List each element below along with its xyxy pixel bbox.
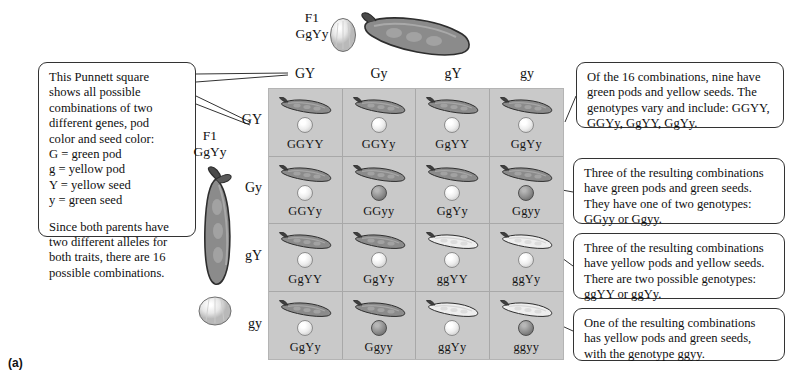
- figure-part-label: (a): [8, 356, 23, 370]
- callout-green-pod-green-seed: Three of the resulting combinations have…: [573, 158, 785, 224]
- seed-icon: [297, 320, 313, 336]
- callout-left-line-4: different genes, pod: [49, 116, 149, 130]
- cell-genotype-label: GGyy: [343, 204, 416, 219]
- pod-icon: [498, 232, 554, 249]
- punnett-cell[interactable]: GgYy: [343, 224, 417, 292]
- row-header-1: Gy: [228, 180, 262, 196]
- pod-icon: [277, 232, 333, 249]
- cell-genotype-label: Ggyy: [490, 204, 564, 219]
- pod-icon: [424, 165, 480, 182]
- seed-icon: [444, 252, 460, 268]
- callout-left-line-1: This Punnett square: [49, 70, 149, 84]
- row-header-0: GY: [228, 112, 262, 128]
- punnett-cell[interactable]: Ggyy: [490, 157, 564, 225]
- pod-icon: [277, 97, 333, 114]
- parent-pod-top-icon: [358, 12, 476, 60]
- row-header-2: gY: [228, 248, 262, 264]
- seed-icon: [371, 117, 387, 133]
- seed-icon: [371, 252, 387, 268]
- seed-icon: [518, 252, 534, 268]
- punnett-cell[interactable]: Ggyy: [343, 292, 417, 360]
- f1-left-generation: F1: [186, 128, 234, 144]
- callout-yellow-pod-green-seed: One of the resulting combinations has ye…: [573, 308, 785, 361]
- callout-left-paragraph-1: This Punnett square shows all possible c…: [49, 70, 186, 209]
- seed-icon: [371, 320, 387, 336]
- cell-genotype-label: GGYY: [269, 137, 342, 152]
- callout-left-line-5: color and seed color:: [49, 132, 154, 146]
- seed-icon: [297, 252, 313, 268]
- seed-icon: [518, 185, 534, 201]
- callout-left-line-2: shows all possible: [49, 85, 141, 99]
- cell-genotype-label: GGYy: [343, 137, 416, 152]
- cell-genotype-label: GgYY: [269, 272, 342, 287]
- pod-icon: [351, 232, 407, 249]
- seed-icon: [444, 185, 460, 201]
- seed-icon: [444, 117, 460, 133]
- seed-icon: [518, 117, 534, 133]
- punnett-cell[interactable]: GgYY: [416, 89, 490, 157]
- seed-icon: [371, 185, 387, 201]
- seed-icon: [444, 320, 460, 336]
- column-header-0: GY: [268, 66, 342, 82]
- pod-icon: [424, 97, 480, 114]
- cell-genotype-label: GgYy: [490, 137, 564, 152]
- punnett-cell[interactable]: GGYy: [269, 157, 343, 225]
- punnett-cell[interactable]: ggYy: [416, 292, 490, 360]
- figure-canvas: This Punnett square shows all possible c…: [0, 0, 795, 386]
- punnett-cell[interactable]: GgYy: [416, 157, 490, 225]
- pod-icon: [351, 300, 407, 317]
- punnett-cell[interactable]: ggyy: [490, 292, 564, 360]
- punnett-square-grid: GGYYGGYyGgYYGgYyGGYyGGyyGgYyGgyyGgYYGgYy…: [268, 88, 564, 360]
- cell-genotype-label: GgYy: [269, 340, 342, 355]
- pod-icon: [424, 232, 480, 249]
- pod-icon: [277, 165, 333, 182]
- punnett-cell[interactable]: GgYy: [490, 89, 564, 157]
- punnett-cell[interactable]: GgYY: [269, 224, 343, 292]
- callout-left-explanation: This Punnett square shows all possible c…: [38, 62, 196, 237]
- punnett-cell[interactable]: GGYY: [269, 89, 343, 157]
- pod-icon: [351, 97, 407, 114]
- cell-genotype-label: ggYy: [416, 340, 489, 355]
- cell-genotype-label: GgYy: [416, 204, 489, 219]
- callout-green-pod-yellow-seed: Of the 16 combinations, nine have green …: [576, 62, 784, 128]
- f1-parent-left-label: F1 GgYy: [186, 128, 234, 160]
- f1-left-genotype: GgYy: [186, 144, 234, 160]
- seed-icon: [518, 320, 534, 336]
- pod-icon: [351, 165, 407, 182]
- callout-left-line-7: g = yellow pod: [49, 162, 125, 176]
- pod-icon: [277, 300, 333, 317]
- cell-genotype-label: GgYY: [416, 137, 489, 152]
- cell-genotype-label: GGYy: [269, 204, 342, 219]
- column-header-1: Gy: [342, 66, 416, 82]
- column-header-3: gy: [490, 66, 564, 82]
- seed-icon: [297, 185, 313, 201]
- punnett-cell[interactable]: GgYy: [269, 292, 343, 360]
- pod-icon: [498, 97, 554, 114]
- callout-left-line-3: combinations of two: [49, 101, 153, 115]
- punnett-cell[interactable]: ggYy: [490, 224, 564, 292]
- pod-icon: [424, 300, 480, 317]
- punnett-cell[interactable]: GGYy: [343, 89, 417, 157]
- cell-genotype-label: GgYy: [343, 272, 416, 287]
- cell-genotype-label: ggYy: [490, 272, 564, 287]
- seed-icon: [297, 117, 313, 133]
- row-header-3: gy: [228, 316, 262, 332]
- pod-icon: [498, 165, 554, 182]
- callout-left-line-8: Y = yellow seed: [49, 178, 131, 192]
- callout-left-paragraph-2: Since both parents have two different al…: [49, 220, 186, 282]
- column-header-2: gY: [416, 66, 490, 82]
- pod-icon: [498, 300, 554, 317]
- punnett-cell[interactable]: ggYY: [416, 224, 490, 292]
- punnett-cell[interactable]: GGyy: [343, 157, 417, 225]
- callout-left-line-6: G = green pod: [49, 147, 122, 161]
- cell-genotype-label: ggYY: [416, 272, 489, 287]
- callout-left-line-9: y = green seed: [49, 193, 122, 207]
- cell-genotype-label: Ggyy: [343, 340, 416, 355]
- cell-genotype-label: ggyy: [490, 340, 564, 355]
- callout-yellow-pod-yellow-seed: Three of the resulting combinations have…: [573, 233, 785, 299]
- parent-seed-top-icon: [329, 17, 357, 53]
